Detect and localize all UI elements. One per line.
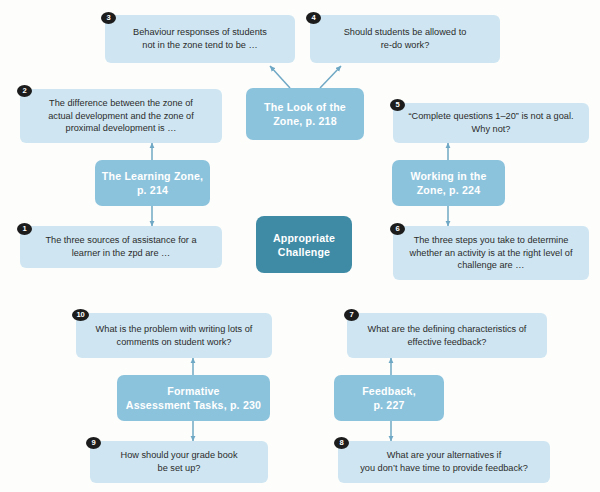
question-card-7[interactable]: What are the defining characteristics of… — [347, 313, 547, 358]
section-card-working-in-zone[interactable]: Working in the Zone, p. 224 — [392, 160, 505, 206]
question-text-7: What are the defining characteristics of… — [368, 323, 527, 348]
question-card-10[interactable]: What is the problem with writing lots of… — [76, 313, 272, 358]
question-text-8: What are your alternatives if you don’t … — [360, 449, 528, 474]
question-card-6[interactable]: The three steps you take to determine wh… — [393, 226, 589, 280]
arrow-look-of-zone-to-q3 — [270, 66, 290, 88]
question-card-9[interactable]: How should your grade book be set up? — [90, 441, 268, 483]
section-card-learning-zone[interactable]: The Learning Zone, p. 214 — [95, 160, 210, 206]
question-card-5[interactable]: “Complete questions 1–20” is not a goal.… — [393, 103, 589, 143]
question-text-4: Should students be allowed to re-do work… — [344, 26, 467, 51]
section-label-feedback: Feedback, p. 227 — [362, 384, 416, 412]
question-card-1[interactable]: The three sources of assistance for a le… — [20, 226, 222, 268]
question-badge-9: 9 — [86, 437, 101, 449]
question-card-3[interactable]: Behaviour responses of students not in t… — [105, 15, 295, 63]
question-text-6: The three steps you take to determine wh… — [410, 234, 573, 272]
question-badge-6: 6 — [390, 223, 405, 235]
question-text-3: Behaviour responses of students not in t… — [133, 26, 267, 51]
question-badge-7: 7 — [344, 309, 359, 321]
question-text-2: The difference between the zone of actua… — [48, 97, 194, 135]
question-badge-2: 2 — [17, 85, 32, 97]
question-text-9: How should your grade book be set up? — [121, 449, 238, 474]
question-badge-3: 3 — [101, 12, 116, 24]
section-label-learning-zone: The Learning Zone, p. 214 — [102, 169, 203, 197]
question-text-1: The three sources of assistance for a le… — [45, 234, 196, 259]
hub-label: Appropriate Challenge — [273, 231, 335, 259]
section-card-look-of-zone[interactable]: The Look of the Zone, p. 218 — [246, 88, 364, 140]
section-card-feedback[interactable]: Feedback, p. 227 — [334, 375, 444, 421]
question-card-8[interactable]: What are your alternatives if you don’t … — [338, 441, 550, 483]
concept-map-canvas: Behaviour responses of students not in t… — [0, 0, 600, 492]
hub-card-appropriate-challenge[interactable]: Appropriate Challenge — [256, 216, 352, 273]
section-label-working-in-zone: Working in the Zone, p. 224 — [410, 169, 486, 197]
question-card-4[interactable]: Should students be allowed to re-do work… — [310, 15, 500, 63]
arrow-look-of-zone-to-q4 — [320, 66, 341, 88]
section-card-formative-assessment[interactable]: Formative Assessment Tasks, p. 230 — [117, 375, 270, 421]
question-card-2[interactable]: The difference between the zone of actua… — [20, 89, 222, 143]
question-text-5: “Complete questions 1–20” is not a goal.… — [409, 110, 574, 135]
section-label-formative-assessment: Formative Assessment Tasks, p. 230 — [126, 384, 261, 412]
question-badge-8: 8 — [334, 437, 349, 449]
question-badge-4: 4 — [306, 12, 321, 24]
question-text-10: What is the problem with writing lots of… — [96, 323, 253, 348]
question-badge-10: 10 — [72, 309, 89, 321]
question-badge-5: 5 — [390, 99, 405, 111]
section-label-look-of-zone: The Look of the Zone, p. 218 — [264, 100, 346, 128]
question-badge-1: 1 — [17, 223, 32, 235]
